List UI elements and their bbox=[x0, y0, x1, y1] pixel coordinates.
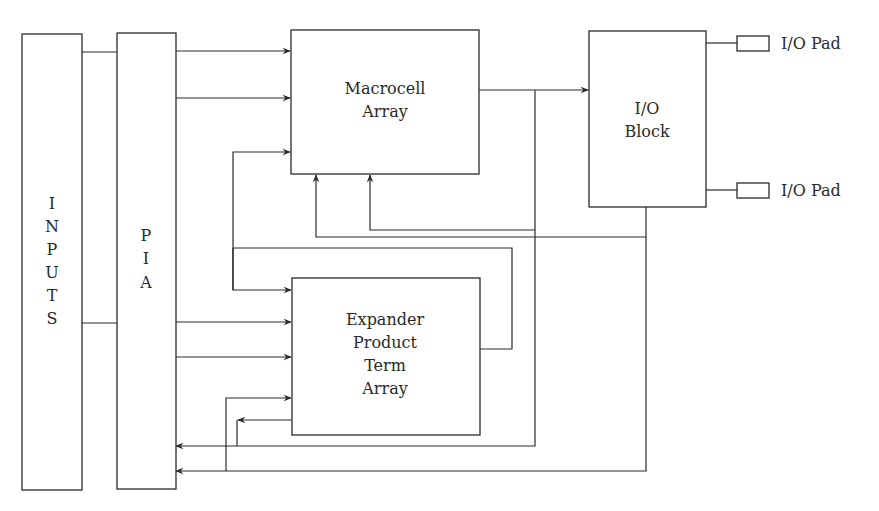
pia-letter: P bbox=[141, 226, 152, 245]
expander-label-1: Expander bbox=[346, 310, 425, 329]
pia-letter: A bbox=[139, 273, 152, 292]
macrocell-label-2: Array bbox=[361, 102, 407, 121]
inputs-letter: U bbox=[45, 263, 58, 282]
io-pad-bottom: I/O Pad bbox=[706, 181, 841, 200]
expander-local-loops bbox=[226, 398, 292, 471]
inputs-block: I N P U T S bbox=[22, 34, 82, 490]
inputs-letter: N bbox=[45, 217, 59, 236]
pld-architecture-diagram: I N P U T S P I A Macrocell Array I/O Bl… bbox=[0, 0, 879, 511]
inputs-letter: T bbox=[47, 286, 58, 305]
expander-label-2: Product bbox=[353, 333, 418, 352]
expander-product-term-array-block: Expander Product Term Array bbox=[292, 278, 480, 435]
io-pad-label: I/O Pad bbox=[781, 181, 841, 200]
inputs-letter: S bbox=[47, 309, 58, 328]
io-block-label-2: Block bbox=[624, 122, 669, 141]
pia-letter: I bbox=[143, 249, 149, 268]
macrocell-array-block: Macrocell Array bbox=[291, 30, 479, 174]
expander-label-3: Term bbox=[364, 356, 406, 375]
io-block: I/O Block bbox=[589, 31, 706, 207]
pia-to-macrocell-arrows bbox=[176, 51, 290, 98]
io-pad-label: I/O Pad bbox=[781, 34, 841, 53]
inputs-to-pia-wires bbox=[82, 52, 117, 323]
inputs-letter: I bbox=[49, 194, 55, 213]
inputs-letter: P bbox=[47, 240, 58, 259]
pia-to-expander-arrows bbox=[176, 322, 291, 357]
io-pad-top: I/O Pad bbox=[706, 34, 841, 53]
expander-label-4: Array bbox=[361, 379, 407, 398]
macrocell-label-1: Macrocell bbox=[345, 79, 426, 98]
io-block-label-1: I/O bbox=[635, 99, 660, 118]
pia-block: P I A bbox=[117, 33, 176, 489]
